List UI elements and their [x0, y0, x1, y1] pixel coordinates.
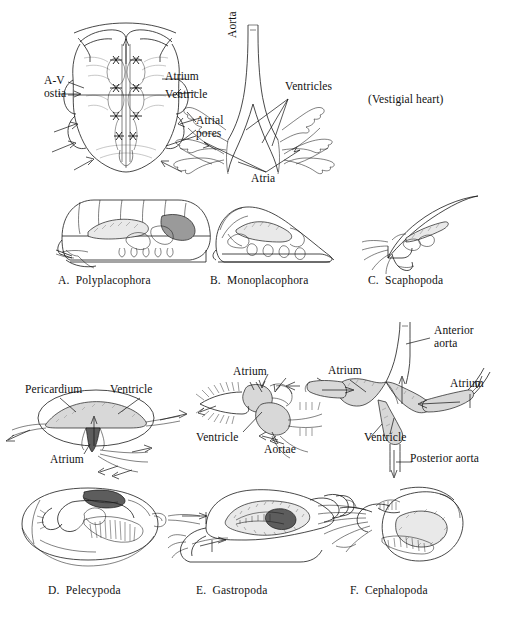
label-atrium-cephalopoda-right: Atrium [450, 377, 484, 390]
label-ventricles: Ventricles [285, 80, 332, 93]
caption-gastropoda: E. Gastropoda [196, 584, 267, 596]
cephalopoda-body-drawing [318, 487, 463, 561]
label-pericardium: Pericardium [25, 383, 82, 396]
caption-cephalopoda: F. Cephalopoda [350, 584, 428, 596]
label-atrium-pelecypoda: Atrium [50, 453, 84, 466]
caption-monoplacophora: B. Monoplacophora [210, 274, 308, 286]
pelecypoda-body-drawing [22, 488, 166, 566]
scaphopoda-body-drawing [362, 196, 478, 274]
monoplacophora-body-drawing [213, 207, 334, 262]
label-ventricle-gastropoda: Ventricle [196, 431, 238, 444]
label-av-ostia: A-V ostia [44, 74, 66, 100]
polyplacophora-body-drawing [56, 200, 210, 268]
label-aorta: Aorta [226, 11, 239, 38]
label-ventricle-polyplacophora: Ventricle [165, 88, 207, 101]
label-posterior-aorta: Posterior aorta [410, 452, 479, 465]
label-atria: Atria [251, 172, 275, 185]
pelecypoda-heart-drawing [6, 390, 187, 479]
label-atrium-cephalopoda-left: Atrium [328, 364, 362, 377]
label-atrial-pores: Atrial pores [196, 114, 223, 140]
caption-polyplacophora: A. Polyplacophora [58, 274, 151, 286]
label-aortae: Aortae [264, 443, 296, 456]
label-anterior-aorta: Anterior aorta [434, 324, 474, 350]
caption-pelecypoda: D. Pelecypoda [48, 584, 121, 596]
label-vestigial-heart: (Vestigial heart) [368, 93, 443, 106]
label-ventricle-pelecypoda: Ventricle [110, 383, 152, 396]
figure-artwork [0, 0, 528, 621]
caption-scaphopoda: C. Scaphopoda [368, 274, 443, 286]
gastropoda-body-drawing [168, 490, 356, 562]
label-ventricle-cephalopoda: Ventricle [364, 431, 406, 444]
label-atrium-gastropoda: Atrium [233, 365, 267, 378]
label-atrium-polyplacophora: Atrium [165, 70, 199, 83]
gastropoda-heart-drawing [196, 374, 324, 458]
